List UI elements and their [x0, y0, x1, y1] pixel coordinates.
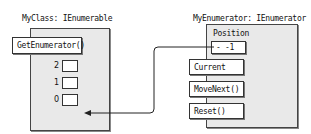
- connector-line: [90, 47, 214, 113]
- reference-connector: [0, 0, 311, 134]
- arrowhead-icon: [84, 110, 91, 116]
